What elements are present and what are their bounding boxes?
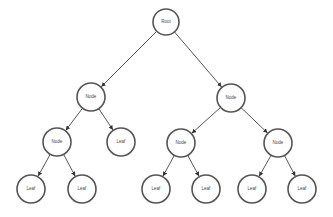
edge-n4-l5 (188, 155, 199, 176)
node-node-n2: Node (217, 84, 245, 112)
edge-n4-l4 (163, 155, 174, 176)
node-label: Leaf (248, 186, 258, 191)
edge-n2-n4 (192, 107, 221, 133)
node-label: Leaf (78, 186, 88, 191)
leaf-node-l3: Leaf (68, 175, 96, 203)
node-label: Leaf (298, 186, 308, 191)
node-label: Node (52, 139, 63, 144)
tree-diagram: RootNodeNodeNodeLeafNodeNodeLeafLeafLeaf… (0, 0, 333, 217)
edge-n3-l2 (38, 154, 50, 176)
leaf-node-l7: Leaf (288, 175, 316, 203)
edge-n2-n5 (241, 108, 267, 133)
node-label: Root (161, 19, 171, 24)
edge-root-n2 (174, 32, 221, 87)
edge-n1-l1 (99, 109, 113, 130)
leaf-node-l6: Leaf (238, 175, 266, 203)
node-label: Node (86, 94, 97, 99)
node-label: Node (176, 140, 187, 145)
root-node-root: Root (153, 9, 179, 35)
edge-n5-l7 (284, 155, 295, 176)
node-label: Node (226, 95, 237, 100)
nodes-layer: RootNodeNodeNodeLeafNodeNodeLeafLeafLeaf… (17, 9, 316, 203)
edge-n3-l3 (64, 154, 76, 176)
edge-n1-n3 (66, 108, 83, 130)
node-node-n3: Node (43, 128, 71, 156)
node-label: Leaf (27, 186, 37, 191)
edge-root-n1 (101, 31, 157, 87)
node-node-n4: Node (167, 129, 195, 157)
node-node-n5: Node (264, 129, 292, 157)
node-label: Leaf (117, 139, 127, 144)
node-label: Leaf (152, 186, 162, 191)
edges-layer (38, 31, 295, 176)
leaf-node-l1: Leaf (107, 128, 135, 156)
edge-n5-l6 (259, 155, 271, 176)
leaf-node-l5: Leaf (192, 175, 220, 203)
leaf-node-l2: Leaf (17, 175, 45, 203)
leaf-node-l4: Leaf (142, 175, 170, 203)
node-node-n1: Node (77, 83, 105, 111)
node-label: Node (273, 140, 284, 145)
node-label: Leaf (202, 186, 212, 191)
